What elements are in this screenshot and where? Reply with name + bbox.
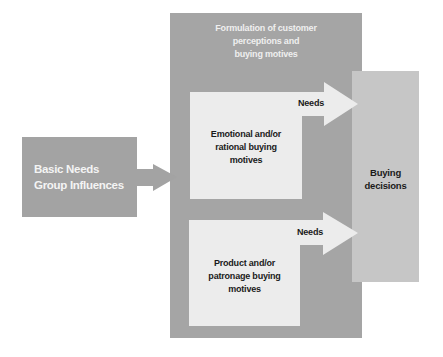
- basic-needs-label: Basic Needs Group Influences: [34, 161, 124, 193]
- product-motives-line-1: Product and/or: [189, 257, 300, 270]
- buying-decisions-line-2: decisions: [352, 179, 419, 192]
- emotional-motives-line-3: motives: [190, 154, 302, 167]
- product-motives-line-3: motives: [189, 283, 300, 296]
- basic-needs-line-2: Group Influences: [34, 177, 124, 193]
- emotional-motives-line-2: rational buying: [190, 141, 302, 154]
- input-arrow-icon: [137, 164, 177, 191]
- emotional-motives-line-1: Emotional and/or: [190, 128, 302, 141]
- product-motives-label: Product and/or patronage buying motives: [189, 257, 300, 296]
- needs-label-bottom: Needs: [297, 227, 323, 237]
- emotional-motives-label: Emotional and/or rational buying motives: [190, 128, 302, 167]
- needs-label-top: Needs: [298, 98, 324, 108]
- buying-decisions-label: Buying decisions: [352, 166, 419, 192]
- product-motives-line-2: patronage buying: [189, 270, 300, 283]
- basic-needs-line-1: Basic Needs: [34, 161, 124, 177]
- buying-decisions-line-1: Buying: [352, 166, 419, 179]
